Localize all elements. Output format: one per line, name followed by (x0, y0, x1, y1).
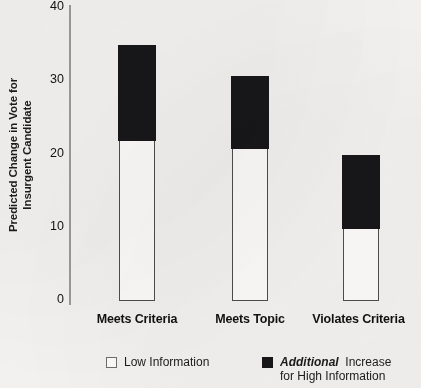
chart-legend: Low Information Additional Increasefor H… (0, 352, 421, 388)
legend-swatch-low-information-icon (106, 357, 117, 368)
legend-label-additional-increase: Additional Increasefor High Information (280, 355, 391, 383)
legend-item-low-information[interactable]: Low Information (106, 355, 209, 369)
y-axis-title-line-1: Predicted Change in Vote for (7, 78, 19, 232)
legend-swatch-additional-increase-icon (262, 357, 273, 368)
legend-label-low-information: Low Information (124, 355, 209, 369)
category-label-meets-topic: Meets Topic (190, 312, 310, 326)
y-tick-label-30: 30 (36, 72, 64, 86)
category-label-violates-criteria: Violates Criteria (296, 312, 421, 326)
y-tick-label-40: 40 (36, 0, 64, 13)
bar-meets-topic[interactable] (232, 76, 268, 301)
legend-label-additional-line2: for High Information (280, 369, 385, 383)
bar-segment-additional-violates-criteria (342, 155, 379, 229)
bar-violates-criteria[interactable] (343, 156, 379, 301)
legend-item-additional-increase[interactable]: Additional Increasefor High Information (262, 355, 391, 383)
legend-label-additional-rest: Increase (345, 355, 391, 369)
bar-meets-criteria[interactable] (119, 46, 155, 301)
bar-segment-additional-meets-topic (231, 76, 268, 150)
y-tick-label-10: 10 (36, 219, 64, 233)
y-axis-title: Predicted Change in Vote for Insurgent C… (0, 0, 40, 310)
y-tick-label-0: 0 (36, 292, 64, 306)
legend-label-additional-emphasis: Additional (280, 355, 339, 369)
plot-area (71, 0, 421, 310)
category-label-meets-criteria: Meets Criteria (68, 312, 206, 326)
chart-figure: Predicted Change in Vote for Insurgent C… (0, 0, 421, 388)
bar-segment-additional-meets-criteria (118, 45, 155, 141)
y-axis-title-line-2: Insurgent Candidate (20, 78, 34, 232)
y-tick-label-20: 20 (36, 146, 64, 160)
